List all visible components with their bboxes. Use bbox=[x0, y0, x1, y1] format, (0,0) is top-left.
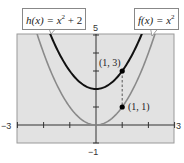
y-min-label: −1 bbox=[88, 147, 98, 157]
point-label-1-1: (1, 1) bbox=[128, 101, 150, 113]
y-max-label: 5 bbox=[93, 23, 98, 33]
legend-h-fn: h(x) = x bbox=[26, 14, 62, 26]
point-label-1-3: (1, 3) bbox=[99, 57, 121, 69]
legend-f-fn: f(x) = x bbox=[138, 14, 171, 26]
legend-label-h: h(x) = x2 + 2 bbox=[22, 8, 86, 30]
x-min-label: −3 bbox=[1, 121, 11, 131]
legend-f-exp: 2 bbox=[171, 13, 175, 21]
legend-label-f: f(x) = x2 bbox=[134, 8, 179, 30]
point-1-3 bbox=[120, 68, 125, 73]
point-1-1 bbox=[120, 104, 125, 109]
legend-h-tail: + 2 bbox=[65, 14, 82, 26]
x-max-label: 3 bbox=[176, 121, 181, 131]
